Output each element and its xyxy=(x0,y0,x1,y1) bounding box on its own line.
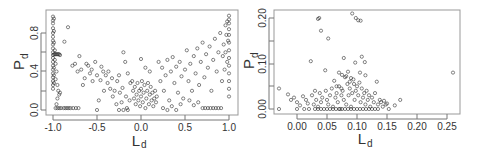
data-point xyxy=(360,55,363,58)
left-xtick-label: -1.0 xyxy=(44,122,62,133)
data-point xyxy=(373,92,376,95)
right-xtick-label: 0.25 xyxy=(437,121,457,132)
data-point xyxy=(190,89,193,92)
data-point xyxy=(189,62,192,65)
data-point xyxy=(179,103,182,106)
data-point xyxy=(354,89,357,92)
data-point xyxy=(51,31,54,34)
data-point xyxy=(128,99,131,102)
data-point xyxy=(215,70,218,73)
data-point xyxy=(141,101,144,104)
data-point xyxy=(399,98,402,101)
data-point xyxy=(227,56,230,59)
data-point xyxy=(309,60,312,63)
data-point xyxy=(382,99,385,102)
data-point xyxy=(328,94,331,97)
data-point xyxy=(53,49,56,52)
data-point xyxy=(340,73,343,76)
left-xlabel: L d xyxy=(132,132,147,148)
data-point xyxy=(304,98,307,101)
data-point xyxy=(182,97,185,100)
data-point xyxy=(115,103,118,106)
data-point xyxy=(277,87,280,90)
data-point xyxy=(51,87,54,90)
data-point xyxy=(375,80,378,83)
data-point xyxy=(223,68,226,71)
data-point xyxy=(367,94,370,97)
left-plot-points xyxy=(51,14,230,112)
data-point xyxy=(358,81,361,84)
data-point xyxy=(227,49,230,52)
data-point xyxy=(387,107,390,110)
data-point xyxy=(117,74,120,77)
data-point xyxy=(219,31,222,34)
data-point xyxy=(121,86,124,89)
data-point xyxy=(51,72,54,75)
data-point xyxy=(126,108,129,111)
data-point xyxy=(120,101,123,104)
data-point xyxy=(136,81,139,84)
data-point xyxy=(334,96,337,99)
data-point xyxy=(348,87,351,90)
data-point xyxy=(336,101,339,104)
data-point xyxy=(106,81,109,84)
data-point xyxy=(355,85,358,88)
left-ytick-label: 0.4 xyxy=(29,64,40,78)
data-point xyxy=(312,103,315,106)
left-xtick-label: 1.0 xyxy=(222,122,236,133)
data-point xyxy=(192,104,195,107)
data-point xyxy=(327,103,330,106)
data-point xyxy=(185,49,188,52)
data-point xyxy=(131,80,134,83)
data-point xyxy=(147,103,150,106)
left-y-ticks xyxy=(41,33,46,110)
data-point xyxy=(351,92,354,95)
data-point xyxy=(52,66,55,69)
right-xlabel: L d xyxy=(358,130,373,148)
data-point xyxy=(143,83,146,86)
data-point xyxy=(307,107,310,110)
data-point xyxy=(286,93,289,96)
data-point xyxy=(301,95,304,98)
data-point xyxy=(104,74,107,77)
right-xtick-label: 0.20 xyxy=(407,121,427,132)
data-point xyxy=(295,101,298,104)
data-point xyxy=(310,94,313,97)
data-point xyxy=(78,55,81,58)
data-point xyxy=(333,79,336,82)
data-point xyxy=(175,108,178,111)
data-point xyxy=(99,79,102,82)
data-point xyxy=(107,70,110,73)
data-point xyxy=(192,55,195,58)
data-point xyxy=(52,41,55,44)
data-point xyxy=(88,72,91,75)
left-xtick-label: -0.5 xyxy=(88,122,106,133)
data-point xyxy=(51,47,54,50)
data-point xyxy=(226,60,229,63)
left-ytick-label: 0.8 xyxy=(29,26,40,40)
data-point xyxy=(372,101,375,104)
left-ylabel-sub: d xyxy=(19,53,30,59)
data-point xyxy=(162,89,165,92)
data-point xyxy=(125,107,128,110)
data-point xyxy=(227,41,230,44)
data-point xyxy=(187,80,190,83)
data-point xyxy=(366,98,369,101)
data-point xyxy=(73,62,76,65)
data-point xyxy=(358,71,361,74)
data-point xyxy=(175,65,178,68)
right-x-ticks xyxy=(297,114,447,119)
data-point xyxy=(199,60,202,63)
data-point xyxy=(138,89,141,92)
data-point xyxy=(51,68,54,71)
data-point xyxy=(159,80,162,83)
data-point xyxy=(81,83,84,86)
data-point xyxy=(201,41,204,44)
data-point xyxy=(292,96,295,99)
data-point xyxy=(335,85,338,88)
data-point xyxy=(95,74,98,77)
data-point xyxy=(134,103,137,106)
data-point xyxy=(361,96,364,99)
data-point xyxy=(321,96,324,99)
data-point xyxy=(194,72,197,75)
